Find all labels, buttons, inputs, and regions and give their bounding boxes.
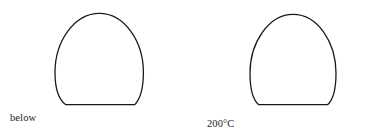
drop-label-right-line1: 200°C xyxy=(207,118,234,130)
drop-label-right: 200°C xyxy=(207,95,234,131)
sessile-drop-figure xyxy=(0,0,376,131)
figure-background xyxy=(0,0,376,131)
drop-label-left: below 0°C xyxy=(10,89,36,131)
drop-label-left-line1: below xyxy=(10,112,36,124)
